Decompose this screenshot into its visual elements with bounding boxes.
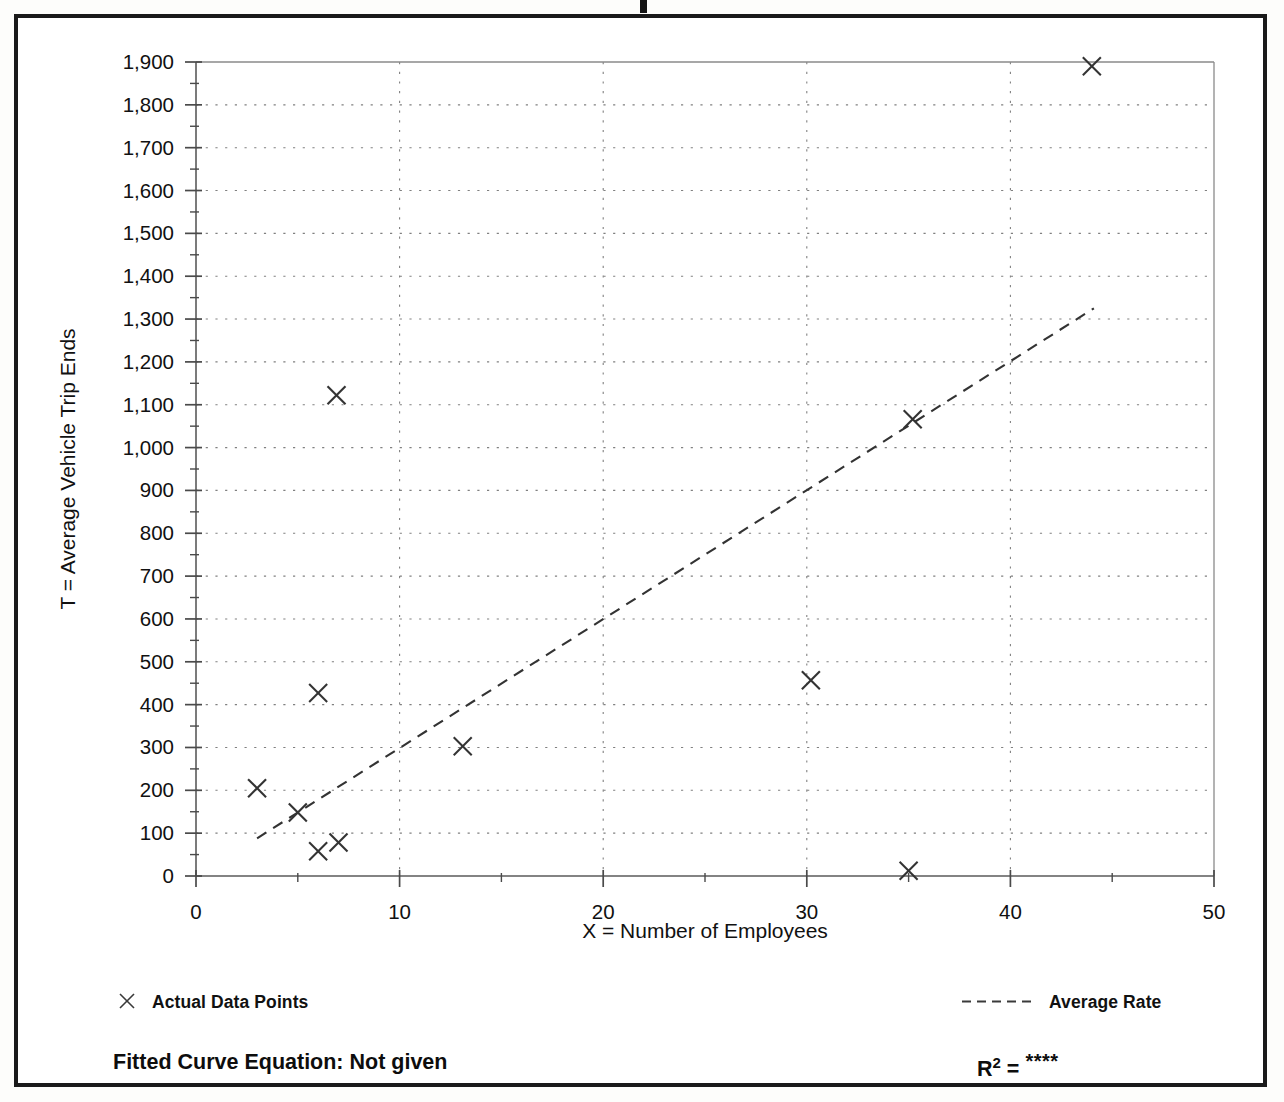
fitted-curve-equation: Fitted Curve Equation: Not given: [113, 1050, 447, 1075]
y-tick-label: 1,000: [123, 436, 174, 459]
r-squared-value: R2 = ****: [977, 1050, 1059, 1082]
y-tick-label: 1,100: [123, 393, 174, 416]
y-tick-label: 400: [140, 693, 174, 716]
y-tick-label: 1,900: [123, 50, 174, 73]
data-point-x-marker: [248, 779, 266, 797]
r2-prefix: R: [977, 1057, 993, 1081]
r2-exponent: 2: [993, 1054, 1001, 1071]
data-point-markers: [248, 57, 1101, 880]
scatter-chart-svg: 01002003004005006007008009001,0001,1001,…: [0, 0, 1284, 1102]
data-point-x-marker: [289, 804, 307, 822]
plot-area: 01002003004005006007008009001,0001,1001,…: [0, 0, 1284, 1102]
y-tick-label: 500: [140, 650, 174, 673]
x-marker-icon: [117, 991, 137, 1011]
legend-label-average-rate: Average Rate: [1049, 992, 1161, 1013]
data-point-x-marker: [309, 842, 327, 860]
data-point-x-marker: [327, 386, 345, 404]
data-point-x-marker: [330, 834, 348, 852]
data-point-x-marker: [802, 671, 820, 689]
y-tick-label: 1,300: [123, 307, 174, 330]
y-tick-label: 900: [140, 478, 174, 501]
y-tick-label: 1,700: [123, 136, 174, 159]
x-tick-label: 0: [190, 900, 201, 923]
y-tick-label: 0: [163, 864, 174, 887]
y-tick-label: 100: [140, 821, 174, 844]
r2-stars: ****: [1025, 1050, 1058, 1072]
y-tick-label: 700: [140, 564, 174, 587]
x-axis-title: X = Number of Employees: [582, 919, 828, 942]
axes: [196, 62, 1214, 876]
y-axis-tick-labels: 01002003004005006007008009001,0001,1001,…: [123, 50, 174, 887]
x-tick-label: 40: [999, 900, 1022, 923]
r2-equals: =: [1001, 1057, 1026, 1081]
gridlines: [196, 62, 1214, 876]
dashed-line-icon: [962, 1000, 1032, 1003]
axis-ticks: [185, 62, 1214, 887]
y-tick-label: 1,200: [123, 350, 174, 373]
x-tick-label: 10: [388, 900, 411, 923]
y-tick-label: 1,800: [123, 93, 174, 116]
data-point-x-marker: [1083, 57, 1101, 75]
y-tick-label: 200: [140, 778, 174, 801]
y-tick-label: 300: [140, 735, 174, 758]
average-rate-trendline: [257, 308, 1094, 838]
y-tick-label: 1,600: [123, 179, 174, 202]
data-point-x-marker: [454, 737, 472, 755]
y-tick-label: 1,500: [123, 221, 174, 244]
x-tick-label: 50: [1203, 900, 1226, 923]
y-tick-label: 1,400: [123, 264, 174, 287]
trendline-average-rate: [257, 308, 1094, 838]
y-axis-title: T = Average Vehicle Trip Ends: [56, 328, 79, 609]
data-point-x-marker: [309, 684, 327, 702]
legend-label-actual-data-points: Actual Data Points: [152, 992, 308, 1013]
y-tick-label: 600: [140, 607, 174, 630]
y-tick-label: 800: [140, 521, 174, 544]
chart-page: 01002003004005006007008009001,0001,1001,…: [0, 0, 1284, 1102]
